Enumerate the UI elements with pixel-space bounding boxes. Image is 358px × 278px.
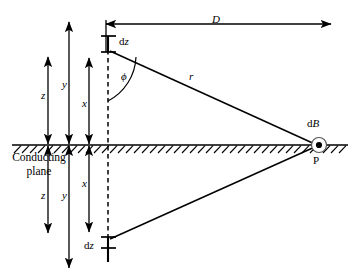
label-distance-D: D (212, 14, 220, 26)
label-dB: dB (307, 118, 319, 130)
current-element-top (101, 36, 116, 52)
label-point-P: P (313, 155, 319, 167)
label-y-upper: y (62, 79, 67, 91)
current-element-bottom (101, 237, 116, 262)
label-dz-bottom-z: z (90, 239, 94, 251)
field-direction-out-of-page-dot (312, 138, 327, 153)
physics-diagram-figure: D dz ϕ r dB P Conducting plane z y x z y… (0, 0, 358, 278)
label-x-upper: x (82, 98, 87, 110)
label-angle-phi: ϕ (121, 71, 127, 83)
label-z-lower: z (41, 190, 45, 202)
label-y-lower: y (62, 190, 67, 202)
label-conducting-plane-line1: Conducting (3, 150, 75, 164)
label-dB-B: B (313, 117, 320, 129)
ray-r-upper (110, 51, 317, 145)
label-radius-r: r (189, 71, 193, 83)
label-x-lower: x (82, 178, 87, 190)
label-conducting-plane: Conducting plane (3, 150, 75, 179)
diagram-canvas (0, 0, 358, 278)
label-dz-top-z: z (125, 35, 129, 47)
label-dz-bottom: dz (84, 240, 94, 252)
ray-lower-image (110, 146, 317, 239)
label-z-upper: z (41, 90, 45, 102)
label-conducting-plane-line2: plane (3, 164, 75, 178)
label-dz-top: dz (119, 36, 129, 48)
